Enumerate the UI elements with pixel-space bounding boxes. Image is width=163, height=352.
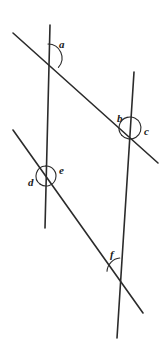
upper-transversal xyxy=(13,33,158,163)
geometry-canvas xyxy=(0,0,163,352)
angle-label-f: f xyxy=(110,249,114,260)
lines-group xyxy=(13,25,158,338)
angle-label-d: d xyxy=(28,177,34,188)
angle-arc-f xyxy=(107,258,120,271)
angle-label-e: e xyxy=(59,165,64,176)
geometry-figure: abcdef xyxy=(0,0,163,352)
angle-label-a: a xyxy=(59,39,65,50)
angle-arc-e xyxy=(40,166,56,186)
angle-label-b: b xyxy=(117,113,123,124)
left-line xyxy=(45,25,50,228)
angle-label-c: c xyxy=(144,126,149,137)
lower-transversal xyxy=(13,130,143,313)
